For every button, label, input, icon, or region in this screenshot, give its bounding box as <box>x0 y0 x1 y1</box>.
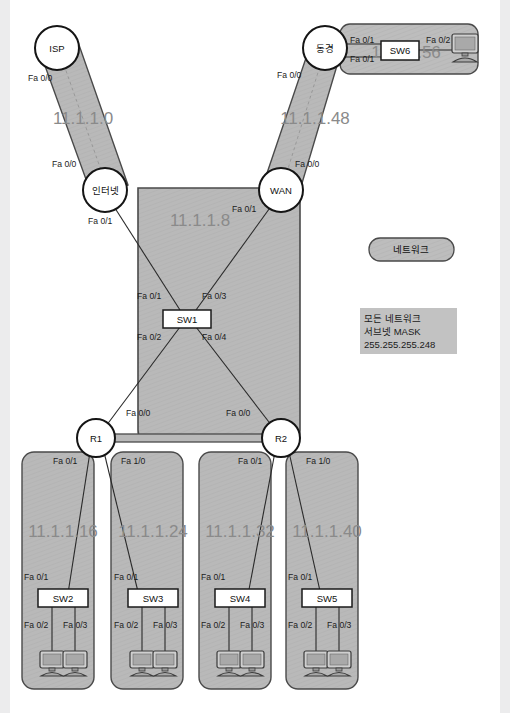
switch-sw3[interactable]: SW3 <box>128 589 178 607</box>
interface-label-r2-fa00: Fa 0/0 <box>226 408 251 418</box>
legend-network-pill: 네트워크 <box>369 238 454 261</box>
interface-label-sw5-fa03: Fa 0/3 <box>327 620 352 630</box>
interface-label-r1-fa00: Fa 0/0 <box>126 408 151 418</box>
interface-label-wan-fa00: Fa 0/0 <box>295 159 320 169</box>
router-r2-label: R2 <box>275 433 287 444</box>
switch-sw6-label: SW6 <box>390 45 411 56</box>
interface-label-internet-fa01: Fa 0/1 <box>88 216 113 226</box>
legend-network-pill-label: 네트워크 <box>393 244 429 255</box>
interface-label-r1-fa10: Fa 1/0 <box>121 456 146 466</box>
router-isp[interactable]: ISP <box>35 26 79 70</box>
interface-label-sw1-fa01: Fa 0/1 <box>137 291 162 301</box>
interface-label-isp-fa00: Fa 0/0 <box>28 73 53 83</box>
interface-label-sw4-fa02: Fa 0/2 <box>201 620 226 630</box>
interface-label-internet-fa00: Fa 0/0 <box>52 159 77 169</box>
interface-label-r2-fa01: Fa 0/1 <box>238 456 263 466</box>
switch-sw4[interactable]: SW4 <box>215 589 265 607</box>
router-tokyo[interactable]: 동경 <box>303 26 347 70</box>
switch-sw1-label: SW1 <box>177 314 198 325</box>
switch-sw5-label: SW5 <box>317 593 338 604</box>
interface-label-sw1-fa03: Fa 0/3 <box>202 291 227 301</box>
network-label-11-1-1-24: 11.1.1.24 <box>118 522 188 541</box>
interface-label-sw1-fa02: Fa 0/2 <box>137 332 162 342</box>
interface-label-sw1-fa04: Fa 0/4 <box>202 332 227 342</box>
legend-mask-note: 모든 네트워크 서브넷 MASK 255.255.255.248 <box>360 308 457 354</box>
interface-label-tokyo-fa01-b: Fa 0/1 <box>350 54 375 64</box>
diagram-page: 11.1.1.0 11.1.1.48 11.1.1.8 11.1.1.56 11… <box>0 0 510 713</box>
switch-sw5[interactable]: SW5 <box>302 589 352 607</box>
interface-label-sw3-fa01: Fa 0/1 <box>114 572 139 582</box>
interface-label-wan-fa01: Fa 0/1 <box>232 204 257 214</box>
router-isp-label: ISP <box>49 43 64 54</box>
router-wan-label: WAN <box>270 185 292 196</box>
interface-label-sw2-fa03: Fa 0/3 <box>63 620 88 630</box>
router-tokyo-label: 동경 <box>316 43 334 54</box>
network-label-11-1-1-40: 11.1.1.40 <box>292 522 362 541</box>
interface-label-sw5-fa01: Fa 0/1 <box>288 572 313 582</box>
interface-label-sw3-fa02: Fa 0/2 <box>114 620 139 630</box>
switch-sw4-label: SW4 <box>230 593 251 604</box>
legend-note-line-1: 모든 네트워크 <box>364 313 421 324</box>
interface-label-tokyo-fa00: Fa 0/0 <box>277 70 302 80</box>
switch-sw3-label: SW3 <box>143 593 164 604</box>
interface-label-tokyo-fa01-a: Fa 0/1 <box>350 35 375 45</box>
interface-label-r1-fa01: Fa 0/1 <box>53 456 78 466</box>
legend-note-line-3: 255.255.255.248 <box>364 339 435 350</box>
router-internet[interactable]: 인터넷 <box>83 168 127 212</box>
router-r1-label: R1 <box>90 433 102 444</box>
switch-sw2-label: SW2 <box>53 593 74 604</box>
interface-label-sw3-fa03: Fa 0/3 <box>153 620 178 630</box>
network-label-11-1-1-0: 11.1.1.0 <box>53 109 113 128</box>
network-label-11-1-1-16: 11.1.1.16 <box>28 522 98 541</box>
segment-r1-r2-link <box>96 434 282 442</box>
network-topology-svg: 11.1.1.0 11.1.1.48 11.1.1.8 11.1.1.56 11… <box>0 0 510 713</box>
interface-label-r2-fa10: Fa 1/0 <box>306 456 331 466</box>
router-r2[interactable]: R2 <box>262 419 300 457</box>
network-label-11-1-1-48: 11.1.1.48 <box>280 109 350 128</box>
interface-label-sw2-fa01: Fa 0/1 <box>24 572 49 582</box>
interface-label-sw4-fa01: Fa 0/1 <box>201 572 226 582</box>
interface-label-sw5-fa02: Fa 0/2 <box>288 620 313 630</box>
router-internet-label: 인터넷 <box>92 185 119 196</box>
legend-note-line-2: 서브넷 MASK <box>364 326 421 337</box>
router-r1[interactable]: R1 <box>77 419 115 457</box>
network-label-11-1-1-8: 11.1.1.8 <box>170 211 230 230</box>
router-wan[interactable]: WAN <box>259 168 303 212</box>
switch-sw2[interactable]: SW2 <box>38 589 88 607</box>
interface-label-sw2-fa02: Fa 0/2 <box>24 620 49 630</box>
switch-sw6[interactable]: SW6 <box>381 41 419 60</box>
interface-label-sw4-fa03: Fa 0/3 <box>240 620 265 630</box>
interface-label-sw6-fa02: Fa 0/2 <box>426 35 451 45</box>
switch-sw1[interactable]: SW1 <box>163 310 211 328</box>
network-label-11-1-1-32: 11.1.1.32 <box>205 522 275 541</box>
